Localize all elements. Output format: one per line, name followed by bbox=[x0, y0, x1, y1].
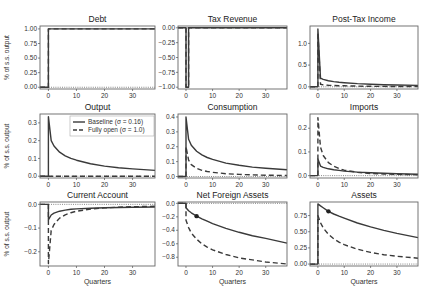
series-fully-open bbox=[310, 33, 418, 87]
y-tick-label: −0.25 bbox=[159, 39, 176, 46]
series-fully-open bbox=[310, 216, 418, 265]
y-tick-label: −0.2 bbox=[24, 248, 37, 255]
series-fully-open bbox=[178, 147, 287, 177]
x-tick-label: 30 bbox=[393, 269, 401, 276]
y-tick-label: 0.75 bbox=[24, 40, 37, 47]
panel-output: Output0.00.10.20.30102030% of s.s. outpu… bbox=[3, 102, 155, 188]
panel-imports: Imports0.00.10.20102030 bbox=[298, 102, 418, 188]
y-tick-label: 0.0 bbox=[298, 83, 307, 90]
y-tick-label: 0.50 bbox=[24, 54, 37, 61]
x-tick-label: 10 bbox=[341, 181, 349, 188]
y-tick-label: −0.4 bbox=[162, 226, 175, 233]
y-axis-label: % of s.s. output bbox=[3, 35, 11, 80]
y-tick-label: −0.8 bbox=[162, 253, 175, 260]
y-tick-label: 0.1 bbox=[298, 148, 307, 155]
y-tick-label: 0.0 bbox=[166, 200, 175, 207]
y-tick-label: 0.0 bbox=[166, 173, 175, 180]
series-baseline bbox=[310, 29, 418, 87]
series-baseline bbox=[40, 29, 155, 87]
panel-net-foreign-assets: Net Foreign Assets0.0−0.2−0.4−0.6−0.8010… bbox=[162, 190, 287, 286]
x-tick-label: 20 bbox=[367, 92, 375, 99]
axes-frame bbox=[40, 26, 155, 89]
y-tick-label: 0.0 bbox=[298, 172, 307, 179]
series-fully-open bbox=[40, 204, 155, 263]
y-tick-label: 1.00 bbox=[24, 25, 37, 32]
x-tick-label: 20 bbox=[101, 92, 109, 99]
x-tick-label: 10 bbox=[73, 269, 81, 276]
x-tick-label: 20 bbox=[236, 269, 244, 276]
panel-title: Output bbox=[85, 102, 111, 112]
y-tick-label: 0.00 bbox=[294, 260, 307, 267]
series-baseline bbox=[310, 204, 418, 264]
x-tick-label: 20 bbox=[367, 181, 375, 188]
y-tick-label: 0.3 bbox=[28, 119, 37, 126]
marker-dot bbox=[326, 209, 330, 213]
x-tick-label: 20 bbox=[236, 92, 244, 99]
x-tick-label: 30 bbox=[393, 181, 401, 188]
y-tick-label: −0.1 bbox=[24, 224, 37, 231]
y-tick-label: 0.1 bbox=[166, 158, 175, 165]
x-tick-label: 10 bbox=[73, 181, 81, 188]
y-tick-label: −0.50 bbox=[159, 54, 176, 61]
x-tick-label: 10 bbox=[341, 269, 349, 276]
y-tick-label: 0.3 bbox=[166, 128, 175, 135]
y-tick-label: −1.00 bbox=[159, 83, 176, 90]
panel-assets: Assets0.000.250.500.750102030Quarters bbox=[294, 190, 418, 286]
x-tick-label: 20 bbox=[101, 269, 109, 276]
panel-title: Net Foreign Assets bbox=[197, 190, 269, 200]
x-tick-label: 20 bbox=[101, 181, 109, 188]
y-tick-label: 1.0 bbox=[298, 40, 307, 47]
x-tick-label: 0 bbox=[47, 92, 51, 99]
y-tick-label: 0.25 bbox=[294, 244, 307, 251]
x-axis-label: Quarters bbox=[219, 278, 247, 286]
marker-dot bbox=[194, 214, 198, 218]
axes-frame bbox=[178, 26, 287, 89]
series-baseline bbox=[310, 159, 418, 176]
figure-canvas: Debt0.000.250.500.751.000102030% of s.s.… bbox=[0, 0, 442, 301]
y-tick-label: −0.2 bbox=[162, 213, 175, 220]
x-tick-label: 0 bbox=[184, 92, 188, 99]
series-baseline bbox=[178, 28, 287, 87]
panel-debt: Debt0.000.250.500.751.000102030% of s.s.… bbox=[3, 14, 155, 99]
y-tick-label: 0.5 bbox=[298, 61, 307, 68]
series-fully-open bbox=[178, 203, 287, 264]
panel-title: Current Account bbox=[67, 190, 129, 200]
impulse-response-figure: Debt0.000.250.500.751.000102030% of s.s.… bbox=[0, 0, 442, 301]
panel-title: Post-Tax Income bbox=[332, 14, 396, 24]
x-tick-label: 0 bbox=[316, 269, 320, 276]
y-tick-label: −0.6 bbox=[162, 240, 175, 247]
x-tick-label: 20 bbox=[236, 181, 244, 188]
y-tick-label: 0.00 bbox=[162, 24, 175, 31]
x-tick-label: 10 bbox=[209, 269, 217, 276]
panel-title: Assets bbox=[351, 190, 377, 200]
panel-tax-revenue: Tax Revenue0.00−0.25−0.50−0.75−1.0001020… bbox=[159, 14, 287, 99]
x-tick-label: 0 bbox=[47, 269, 51, 276]
legend: Baseline (σ = 0.16)Fully open (σ = 1.0) bbox=[70, 116, 154, 136]
x-tick-label: 20 bbox=[367, 269, 375, 276]
y-axis-label: % of s.s. output bbox=[3, 123, 11, 168]
x-tick-label: 30 bbox=[262, 92, 270, 99]
y-tick-label: 0.50 bbox=[294, 228, 307, 235]
series-fully-open bbox=[40, 29, 155, 87]
y-tick-label: 0.4 bbox=[166, 113, 175, 120]
series-fully-open bbox=[310, 118, 418, 176]
series-fully-open bbox=[178, 28, 287, 87]
x-tick-label: 30 bbox=[262, 181, 270, 188]
x-tick-label: 0 bbox=[184, 181, 188, 188]
x-tick-label: 30 bbox=[393, 92, 401, 99]
x-tick-label: 10 bbox=[73, 92, 81, 99]
legend-entry-label: Baseline (σ = 0.16) bbox=[88, 118, 143, 126]
x-axis-label: Quarters bbox=[84, 278, 112, 286]
x-tick-label: 30 bbox=[129, 92, 137, 99]
panel-consumption: Consumption0.00.10.20.30.40102030 bbox=[166, 102, 287, 188]
y-tick-label: 0.1 bbox=[28, 155, 37, 162]
panel-current-account: Current Account0.0−0.1−0.20102030% of s.… bbox=[3, 190, 155, 286]
x-tick-label: 30 bbox=[129, 181, 137, 188]
x-tick-label: 30 bbox=[129, 269, 137, 276]
y-tick-label: −0.75 bbox=[159, 69, 176, 76]
panel-title: Tax Revenue bbox=[208, 14, 258, 24]
x-tick-label: 0 bbox=[47, 181, 51, 188]
panel-post-tax-income: Post-Tax Income0.00.51.00102030 bbox=[298, 14, 418, 99]
y-tick-label: 0.2 bbox=[166, 143, 175, 150]
panel-title: Consumption bbox=[207, 102, 257, 112]
